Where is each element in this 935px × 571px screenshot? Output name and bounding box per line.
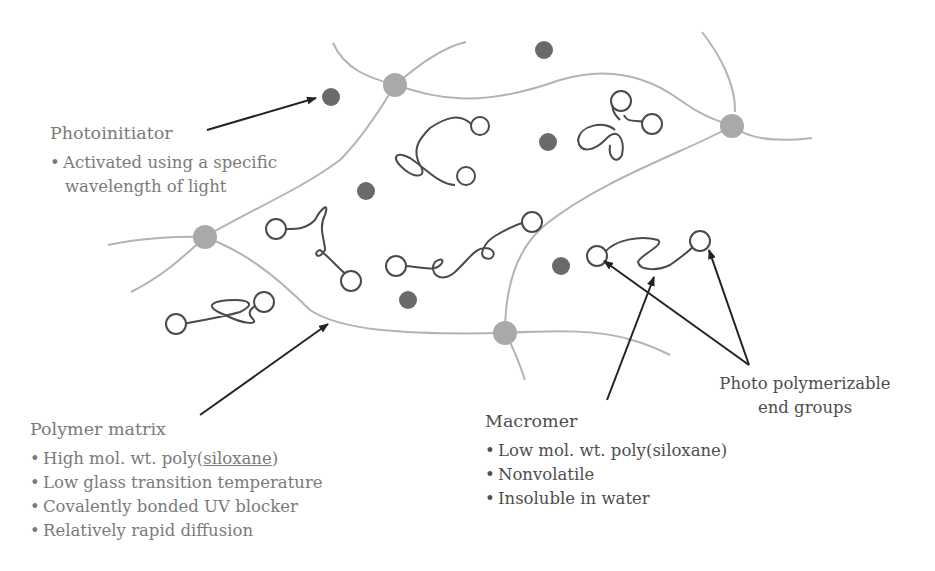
polymer-matrix-label: Polymer matrix High mol. wt. poly(siloxa… (30, 421, 323, 543)
photoinitiator-bullets: Activated using a specific (50, 151, 277, 175)
photoinitiator-label: Photoinitiator Activated using a specifi… (50, 125, 277, 199)
bullet-item: Insoluble in water (485, 487, 727, 511)
polymer-matrix-strands (108, 32, 812, 380)
polymer-matrix-bullets: High mol. wt. poly(siloxane) Low glass t… (30, 447, 323, 543)
macromer-label: Macromer Low mol. wt. poly(siloxane) Non… (485, 413, 727, 511)
crosslink-node (720, 114, 744, 138)
arrow-polymer-matrix (200, 324, 328, 415)
photoinitiator-dot (535, 41, 553, 59)
crosslink-node (493, 321, 517, 345)
photoinitiator-dot (399, 291, 417, 309)
bullet-item: Activated using a specific (50, 151, 277, 175)
photoinitiator-dots (322, 41, 570, 309)
bullet-underlined-text: siloxane (203, 449, 272, 468)
bullet-item: Nonvolatile (485, 463, 727, 487)
arrow-macromer (607, 277, 654, 400)
end-groups-line2: end groups (700, 396, 910, 420)
bullet-text: High mol. wt. poly( (43, 449, 203, 468)
photoinitiator-dot (539, 133, 557, 151)
bullet-item: Relatively rapid diffusion (30, 519, 323, 543)
bullet-item: Low glass transition temperature (30, 471, 323, 495)
photoinitiator-dot (357, 182, 375, 200)
end-groups-line1: Photo polymerizable (700, 372, 910, 396)
crosslink-node (383, 73, 407, 97)
macromer-title: Macromer (485, 413, 727, 439)
arrow-end-group-right (709, 250, 749, 365)
bullet-item: High mol. wt. poly(siloxane) (30, 447, 323, 471)
crosslink-node (193, 225, 217, 249)
photoinitiator-dot (552, 257, 570, 275)
bullet-text: ) (272, 449, 278, 468)
photoinitiator-title: Photoinitiator (50, 125, 277, 151)
pointer-arrows (200, 98, 749, 415)
bullet-item: Low mol. wt. poly(siloxane) (485, 439, 727, 463)
crosslink-nodes (193, 73, 744, 345)
photoinitiator-dot (322, 88, 340, 106)
photoinitiator-bullet-continuation: wavelength of light (50, 175, 277, 199)
bullet-item: Covalently bonded UV blocker (30, 495, 323, 519)
end-groups-label: Photo polymerizable end groups (700, 372, 910, 420)
polymer-matrix-title: Polymer matrix (30, 421, 323, 447)
macromer-bullets: Low mol. wt. poly(siloxane) Nonvolatile … (485, 439, 727, 511)
